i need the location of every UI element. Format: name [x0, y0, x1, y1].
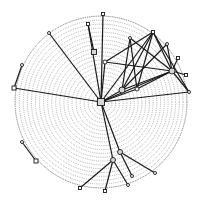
graph-nodes — [12, 13, 191, 193]
graph-node-n-peak — [152, 31, 155, 34]
graph-edge — [88, 24, 94, 52]
graph-edge — [14, 65, 22, 88]
graph-node-n-mid4 — [103, 60, 107, 64]
graph-node-n-ll1 — [21, 141, 24, 144]
graph-node-n-b4 — [154, 172, 157, 175]
graph-node-n-mid1 — [92, 50, 97, 55]
graph-node-n-r3 — [185, 74, 188, 77]
graph-node-n-b5 — [131, 175, 134, 178]
graph-node-n-left1 — [12, 86, 16, 90]
graph-node-n-b2 — [104, 190, 107, 193]
graph-node-n-r4 — [188, 91, 191, 94]
graph-node-n-mid2 — [119, 87, 125, 93]
graph-node-n-top4 — [129, 37, 132, 40]
graph-node-n-bot-hub — [111, 158, 116, 163]
graph-node-n-top3 — [48, 32, 51, 35]
graph-edge — [153, 32, 189, 92]
graph-node-n-b3 — [127, 184, 130, 187]
graph-node-n-top2 — [102, 13, 105, 16]
graph-edge — [137, 71, 172, 89]
graph-node-n-ll2 — [34, 159, 38, 163]
graph-node-n-mid3 — [135, 87, 139, 91]
graph-node-n-r1 — [166, 43, 169, 46]
graph-node-n-top1 — [87, 23, 90, 26]
graph-node-n-r2 — [177, 57, 180, 60]
graph-edge — [101, 102, 113, 160]
graph-node-n-hub — [169, 68, 175, 74]
graph-node-n-left2 — [21, 64, 24, 67]
graph-node-center — [98, 99, 105, 106]
network-sphere-diagram — [0, 0, 201, 200]
graph-node-n-bot-hub2 — [118, 150, 123, 155]
graph-node-n-b1 — [79, 187, 82, 190]
graph-edge — [49, 33, 101, 102]
graph-edge — [101, 102, 120, 152]
graph-edge — [22, 142, 36, 161]
